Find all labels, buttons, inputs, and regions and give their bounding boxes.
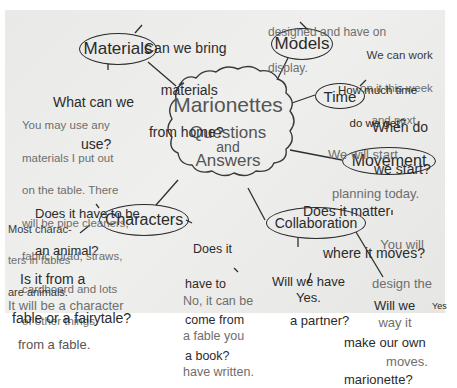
collaboration-question-2: Will we make our own marionette? xyxy=(344,275,426,388)
characters-answer-3: No, it can be a fable you have written. xyxy=(183,272,254,388)
collaboration-answer-1: Yes. xyxy=(296,291,321,304)
characters-answer-2: It will be a character from a fable. xyxy=(8,273,124,364)
center-line4: Answers xyxy=(195,151,260,171)
materials-question-1: Can we bring materials from home? xyxy=(144,13,227,153)
collaboration-answer-2: Yes xyxy=(432,302,447,311)
